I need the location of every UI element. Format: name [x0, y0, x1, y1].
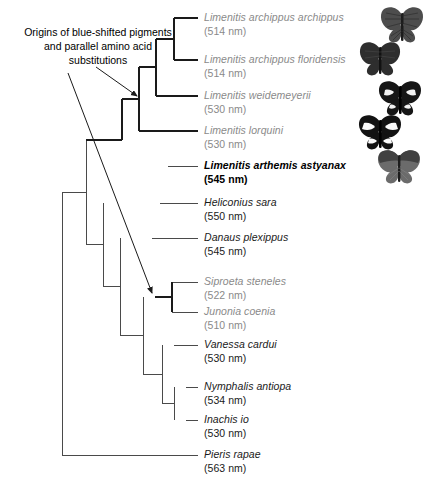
- taxon-scientific-name: Inachis io: [204, 413, 249, 427]
- butterfly-specimen-image: [356, 112, 404, 152]
- taxon-label: Limenitis archippus archippus (514 nm): [204, 11, 344, 38]
- taxon-label: Inachis io (530 nm): [204, 413, 249, 440]
- taxon-label: Limenitis archippus floridensis (514 nm): [204, 53, 346, 80]
- phylogenetic-tree-figure: Origins of blue-shifted pigments and par…: [0, 0, 429, 481]
- taxon-peak-wavelength: (563 nm): [204, 462, 261, 476]
- taxon-peak-wavelength: (534 nm): [204, 394, 291, 408]
- taxon-scientific-name: Vanessa cardui: [204, 338, 277, 352]
- taxon-label: Siproeta steneles (522 nm): [204, 275, 286, 302]
- taxon-label: Heliconius sara (550 nm): [204, 196, 277, 223]
- taxon-scientific-name: Siproeta steneles: [204, 275, 286, 289]
- taxon-label: Nymphalis antiopa (534 nm): [204, 380, 291, 407]
- taxon-peak-wavelength: (514 nm): [204, 67, 346, 81]
- annotation-label: Origins of blue-shifted pigments and par…: [3, 25, 193, 67]
- taxon-scientific-name: Heliconius sara: [204, 196, 277, 210]
- highlighted-siproeta-junonia-stem: [155, 282, 172, 312]
- annotation-line-2: and parallel amino acid: [44, 40, 152, 52]
- taxon-peak-wavelength: (522 nm): [204, 289, 286, 303]
- taxon-scientific-name: Danaus plexippus: [204, 231, 288, 245]
- taxon-peak-wavelength: (550 nm): [204, 210, 277, 224]
- taxon-label: Limenitis weidemeyerii (530 nm): [204, 89, 311, 116]
- taxon-scientific-name: Limenitis arthemis astyanax: [204, 159, 346, 173]
- taxon-scientific-name: Limenitis archippus floridensis: [204, 53, 346, 67]
- taxon-label: Limenitis arthemis astyanax (545 nm): [204, 159, 346, 186]
- butterfly-specimen-image: [378, 5, 426, 45]
- annotation-line-1: Origins of blue-shifted pigments: [24, 26, 172, 38]
- taxon-label: Danaus plexippus (545 nm): [204, 231, 288, 258]
- taxon-peak-wavelength: (510 nm): [204, 319, 275, 333]
- taxon-label: Pieris rapae (563 nm): [204, 448, 261, 475]
- taxon-peak-wavelength: (530 nm): [204, 427, 249, 441]
- taxon-peak-wavelength: (530 nm): [204, 352, 277, 366]
- butterfly-specimen-image: [357, 40, 403, 78]
- taxon-scientific-name: Limenitis lorquini: [204, 124, 283, 138]
- taxon-peak-wavelength: (545 nm): [204, 245, 288, 259]
- taxon-scientific-name: Pieris rapae: [204, 448, 261, 462]
- taxon-peak-wavelength: (514 nm): [204, 25, 344, 39]
- taxon-peak-wavelength: (530 nm): [204, 138, 283, 152]
- taxon-peak-wavelength: (545 nm): [204, 173, 346, 187]
- taxon-scientific-name: Limenitis archippus archippus: [204, 11, 344, 25]
- taxon-label: Limenitis lorquini (530 nm): [204, 124, 283, 151]
- taxon-scientific-name: Junonia coenia: [204, 305, 275, 319]
- annotation-line-3: substitutions: [69, 54, 127, 66]
- taxon-label: Vanessa cardui (530 nm): [204, 338, 277, 365]
- taxon-scientific-name: Nymphalis antiopa: [204, 380, 291, 394]
- taxon-scientific-name: Limenitis weidemeyerii: [204, 89, 311, 103]
- taxon-peak-wavelength: (530 nm): [204, 103, 311, 117]
- butterfly-specimen-image: [375, 148, 423, 186]
- taxon-label: Junonia coenia (510 nm): [204, 305, 275, 332]
